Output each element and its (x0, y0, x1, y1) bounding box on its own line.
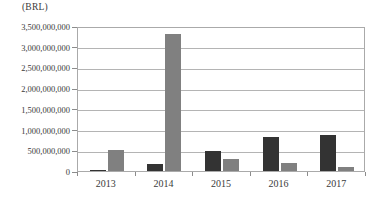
x-axis-tick-mark (192, 172, 193, 176)
y-axis-tick-mark (72, 130, 77, 131)
bar-series-b-2017 (338, 167, 354, 171)
bar-series-a-2017 (320, 135, 336, 171)
x-axis-category-label: 2017 (326, 178, 346, 189)
bar-group (78, 28, 136, 171)
x-axis-category-label: 2014 (153, 178, 173, 189)
bar-series-b-2013 (108, 150, 124, 171)
bar-series-a-2016 (263, 137, 279, 171)
x-axis-tick-mark (250, 172, 251, 176)
y-axis-tick-label: 2,000,000,000 (21, 85, 70, 94)
x-axis-tick-mark (307, 172, 308, 176)
bar-series-a-2015 (205, 151, 221, 171)
bar-series-a-2013 (90, 170, 106, 171)
y-axis-tick-mark (72, 89, 77, 90)
x-axis-category-label: 2015 (211, 178, 231, 189)
y-axis-tick-label: 0 (66, 168, 70, 177)
x-axis-tick-mark (77, 172, 78, 176)
y-axis-tick-mark (72, 68, 77, 69)
bar-series-b-2016 (281, 163, 297, 171)
x-axis-tick-mark (365, 172, 366, 176)
y-axis-tick-mark (72, 151, 77, 152)
bar-chart: (BRL) 0500,000,0001,000,000,0001,500,000… (0, 0, 376, 204)
y-axis-tick-label: 1,500,000,000 (21, 105, 70, 114)
y-axis-unit-label: (BRL) (22, 2, 48, 12)
bar-series-b-2015 (223, 159, 239, 171)
bar-series-a-2014 (147, 164, 163, 171)
bar-group (251, 28, 309, 171)
y-axis-tick-mark (72, 109, 77, 110)
y-axis-tick-label: 500,000,000 (28, 147, 71, 156)
bar-series-b-2014 (165, 34, 181, 171)
y-axis-tick-mark (72, 47, 77, 48)
bar-group (193, 28, 251, 171)
plot-area (77, 27, 365, 172)
x-axis-category-label: 2013 (96, 178, 116, 189)
y-axis-tick-label: 3,500,000,000 (21, 23, 70, 32)
y-axis-tick-label: 1,000,000,000 (21, 126, 70, 135)
x-axis-category-label: 2016 (269, 178, 289, 189)
y-axis-tick-label: 3,000,000,000 (21, 43, 70, 52)
y-axis-tick-label: 2,500,000,000 (21, 64, 70, 73)
y-axis-tick-mark (72, 27, 77, 28)
bar-group (308, 28, 366, 171)
y-axis-tick-labels: 0500,000,0001,000,000,0001,500,000,0002,… (0, 27, 74, 172)
bar-group (136, 28, 194, 171)
x-axis-tick-mark (135, 172, 136, 176)
